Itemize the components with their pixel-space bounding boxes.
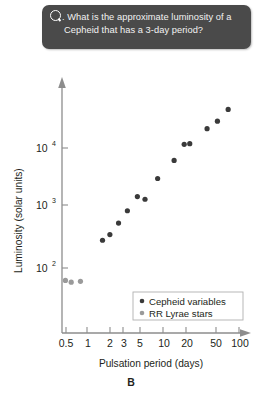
x-axis-arrowhead <box>240 329 251 337</box>
data-point <box>125 208 130 213</box>
data-point <box>204 126 209 131</box>
x-tick-label-3: 3 <box>121 337 127 349</box>
data-point <box>172 158 177 163</box>
x-tick-label-2: 2 <box>107 337 113 349</box>
x-tick-labels: 0.5 1 2 3 5 10 20 50 100 <box>59 337 249 349</box>
data-point <box>226 107 231 112</box>
data-point <box>100 238 105 243</box>
legend-marker-cepheid <box>140 299 145 304</box>
data-point <box>63 278 68 283</box>
y-tick-label-10e4-base: 10 <box>36 142 48 154</box>
y-tick-label-10e2-exp: 2 <box>52 260 56 267</box>
data-point <box>187 141 192 146</box>
x-tick-label-10: 10 <box>158 337 170 349</box>
question-callout: . What is the approximate luminosity of … <box>42 5 251 49</box>
question-text-line: . What is the approximate luminosity of … <box>50 10 243 36</box>
data-point <box>69 280 74 285</box>
x-tick-label-50: 50 <box>210 337 222 349</box>
x-axis-title: Pulsation period (days) <box>99 358 203 369</box>
y-tick-label-10e4-exp: 4 <box>52 140 56 147</box>
data-point <box>215 119 220 124</box>
legend-label-rr-lyrae: RR Lyrae stars <box>149 308 213 319</box>
x-tick-label-1: 1 <box>85 337 91 349</box>
data-point <box>107 232 112 237</box>
data-points-layer <box>63 107 231 285</box>
y-tick-label-10e3-exp: 3 <box>52 197 56 204</box>
x-tick-label-0-5: 0.5 <box>59 337 74 349</box>
data-point <box>155 176 160 181</box>
panel-letter: B <box>127 376 135 388</box>
y-axis-arrowhead <box>58 77 66 88</box>
data-point <box>116 221 121 226</box>
x-tick-label-20: 20 <box>181 337 193 349</box>
legend-marker-rr-lyrae <box>140 311 145 316</box>
data-point <box>182 142 187 147</box>
y-axis-title: Luminosity (solar units) <box>13 168 24 273</box>
question-circle-icon <box>50 10 61 21</box>
data-point <box>135 194 140 199</box>
x-tick-group <box>66 327 239 333</box>
x-tick-label-100: 100 <box>231 337 249 349</box>
y-tick-labels: 10 4 10 3 10 2 <box>36 140 56 274</box>
y-tick-group <box>62 148 68 268</box>
x-tick-label-5: 5 <box>137 337 143 349</box>
scatter-plot: 10 4 10 3 10 2 Luminosity (solar units) … <box>0 55 263 404</box>
legend-label-cepheid: Cepheid variables <box>149 296 226 307</box>
y-tick-label-10e2-base: 10 <box>36 262 48 274</box>
data-point <box>78 279 83 284</box>
y-tick-label-10e3-base: 10 <box>36 199 48 211</box>
legend: Cepheid variables RR Lyrae stars <box>133 292 243 320</box>
data-point <box>142 197 147 202</box>
question-body: What is the approximate luminosity of a … <box>64 12 231 35</box>
